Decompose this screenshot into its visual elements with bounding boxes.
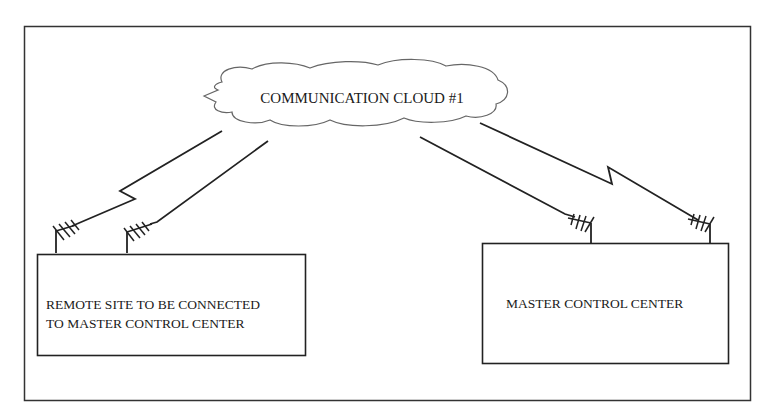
remote-site-label-line1: REMOTE SITE TO BE CONNECTED (46, 297, 260, 312)
remote-link-2 (150, 141, 268, 224)
master-center-label: MASTER CONTROL CENTER (506, 296, 683, 311)
remote-hatch-marks (53, 220, 152, 241)
remote-links (56, 131, 268, 253)
master-control-center-box: MASTER CONTROL CENTER (483, 244, 729, 364)
remote-link-1 (72, 131, 222, 226)
remote-site-box: REMOTE SITE TO BE CONNECTED TO MASTER CO… (38, 255, 306, 356)
master-link-2 (480, 123, 698, 220)
remote-hatch-icon-1 (53, 220, 79, 240)
master-links (420, 123, 710, 243)
remote-site-label-line2: TO MASTER CONTROL CENTER (46, 316, 244, 331)
network-diagram: COMMUNICATION CLOUD #1 REMOTE SITE TO (0, 0, 774, 420)
cloud-label: COMMUNICATION CLOUD #1 (260, 90, 463, 106)
remote-hatch-icon-2 (124, 222, 152, 241)
communication-cloud: COMMUNICATION CLOUD #1 (204, 59, 508, 126)
master-link-1 (420, 137, 575, 217)
